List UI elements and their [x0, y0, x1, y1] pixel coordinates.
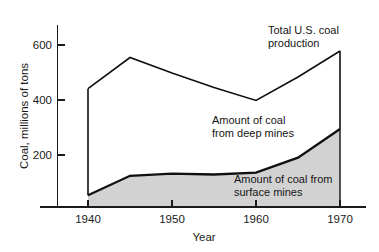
surface-mines-label-line2: surface mines [234, 186, 303, 198]
x-axis-title: Year [192, 231, 215, 243]
x-tick-label-1960: 1960 [243, 213, 269, 225]
surface-mines-label-line1: Amount of coal from [234, 173, 332, 185]
x-tick-label-1950: 1950 [159, 213, 185, 225]
x-tick-label-1970: 1970 [327, 213, 353, 225]
x-tick-label-1940: 1940 [75, 213, 101, 225]
deep-mines-label-line2: from deep mines [212, 127, 294, 139]
y-tick-label-200: 200 [33, 149, 52, 161]
y-tick-label-400: 400 [33, 94, 52, 106]
coal-production-chart: 600 400 200 1940 1950 1960 1970 Coal, mi… [0, 0, 379, 252]
total-production-label-line2: production [268, 37, 319, 49]
y-axis-title: Coal, millions of tons [18, 63, 30, 169]
chart-canvas: 600 400 200 1940 1950 1960 1970 Coal, mi… [0, 0, 379, 252]
total-production-line [88, 51, 340, 100]
y-tick-label-600: 600 [33, 39, 52, 51]
deep-mines-label-line1: Amount of coal [212, 114, 285, 126]
total-production-label-line1: Total U.S. coal [268, 24, 339, 36]
